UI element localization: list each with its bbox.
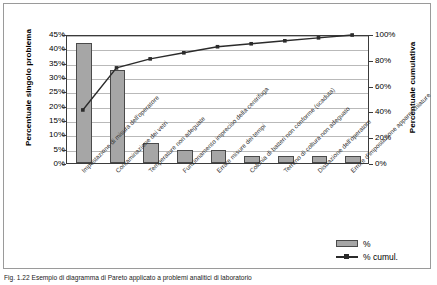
- y-axis-right-tick-label: 100%: [375, 30, 405, 39]
- pareto-chart-figure: Percentuale singolo problema Percentuale…: [0, 0, 437, 285]
- bar: [110, 70, 125, 163]
- y-axis-right-title: Percentuale cumulativa: [408, 13, 417, 163]
- y-axis-right-tick-mark: [369, 35, 373, 36]
- y-axis-right-tick-mark: [369, 87, 373, 88]
- chart-legend: % % cumul.: [336, 237, 398, 263]
- legend-item-percent: %: [336, 237, 398, 250]
- y-axis-left-tick-mark: [62, 164, 66, 165]
- bar-swatch-icon: [336, 240, 358, 247]
- y-axis-right-tick-label: 0%: [375, 159, 405, 168]
- legend-label-cumulative: % cumul.: [363, 252, 398, 262]
- y-axis-right-tick-mark: [369, 112, 373, 113]
- legend-item-cumulative: % cumul.: [336, 250, 398, 263]
- line-marker-swatch-icon: [336, 253, 358, 260]
- gridline: [67, 65, 368, 66]
- y-axis-left-title: Percentuale singolo problema: [24, 13, 33, 163]
- gridline: [67, 36, 368, 37]
- bar: [76, 43, 91, 163]
- y-axis-right-tick-label: 80%: [375, 56, 405, 65]
- figure-caption: Fig. 1.22 Esempio di diagramma di Pareto…: [4, 274, 434, 284]
- y-axis-right-tick-label: 60%: [375, 82, 405, 91]
- gridline: [67, 50, 368, 51]
- y-axis-right-tick-label: 40%: [375, 107, 405, 116]
- y-axis-right-tick-mark: [369, 61, 373, 62]
- legend-label-percent: %: [363, 239, 371, 249]
- y-axis-right-tick-mark: [369, 164, 373, 165]
- y-axis-right-tick-mark: [369, 138, 373, 139]
- chart-frame: Percentuale singolo problema Percentuale…: [3, 3, 431, 269]
